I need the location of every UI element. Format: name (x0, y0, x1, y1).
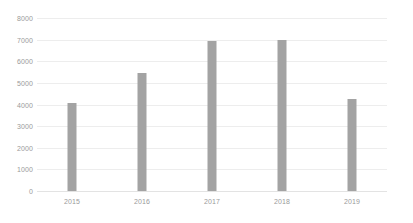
x-tick-label: 2017 (204, 198, 220, 205)
y-tick-label: 6000 (17, 58, 33, 65)
y-tick-label: 3000 (17, 123, 33, 130)
y-tick-label: 1000 (17, 166, 33, 173)
y-tick-label: 0 (29, 188, 33, 195)
bar (348, 99, 357, 191)
bar-chart: 010002000300040005000600070008000 201520… (0, 0, 413, 223)
x-tick-label: 2018 (274, 198, 290, 205)
bar (208, 41, 217, 191)
y-tick-label: 2000 (17, 144, 33, 151)
gridline (37, 191, 387, 192)
x-axis: 20152016201720182019 (37, 194, 387, 214)
y-tick-label: 7000 (17, 36, 33, 43)
x-tick-label: 2016 (134, 198, 150, 205)
bar-series (37, 18, 387, 191)
plot-area (37, 18, 387, 191)
x-tick-label: 2015 (64, 198, 80, 205)
bar (278, 40, 287, 191)
y-tick-label: 8000 (17, 15, 33, 22)
x-tick-label: 2019 (344, 198, 360, 205)
y-axis: 010002000300040005000600070008000 (0, 18, 33, 191)
bar (68, 103, 77, 191)
y-tick-label: 5000 (17, 79, 33, 86)
y-tick-label: 4000 (17, 101, 33, 108)
bar (138, 73, 147, 191)
